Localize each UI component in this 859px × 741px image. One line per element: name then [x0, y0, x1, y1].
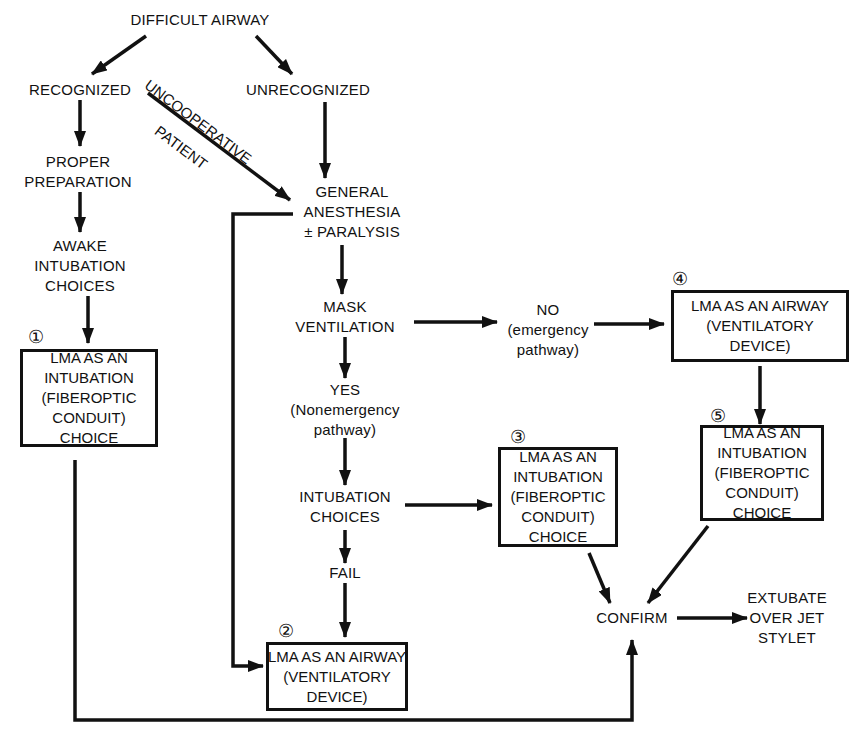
box-2-lma-airway: LMA AS AN AIRWAY (VENTILATORY DEVICE)	[266, 642, 408, 711]
unrecognized-node: UNRECOGNIZED	[246, 80, 370, 100]
general-anesthesia-node: GENERAL ANESTHESIA ± PARALYSIS	[303, 182, 400, 242]
box-4-lma-airway: LMA AS AN AIRWAY (VENTILATORY DEVICE)	[671, 290, 849, 362]
recognized-node: RECOGNIZED	[29, 80, 131, 100]
box-4-text: LMA AS AN AIRWAY (VENTILATORY DEVICE)	[691, 296, 829, 356]
yes-nonemergency-node: YES (Nonemergency pathway)	[290, 380, 399, 440]
difficult-airway-title: DIFFICULT AIRWAY	[130, 10, 269, 30]
box-3-number: ③	[510, 428, 526, 446]
fail-node: FAIL	[329, 563, 361, 583]
confirm-node: CONFIRM	[596, 608, 667, 628]
awake-intubation-node: AWAKE INTUBATION CHOICES	[34, 236, 126, 296]
box-1-lma-intubation: LMA AS AN INTUBATION (FIBEROPTIC CONDUIT…	[20, 349, 158, 447]
box-5-text: LMA AS AN INTUBATION (FIBEROPTIC CONDUIT…	[714, 423, 809, 523]
box-5-lma-intubation: LMA AS AN INTUBATION (FIBEROPTIC CONDUIT…	[700, 425, 824, 521]
box-3-text: LMA AS AN INTUBATION (FIBEROPTIC CONDUIT…	[510, 447, 605, 547]
box-2-number: ②	[278, 622, 294, 640]
box-1-text: LMA AS AN INTUBATION (FIBEROPTIC CONDUIT…	[41, 348, 136, 448]
box-2-text: LMA AS AN AIRWAY (VENTILATORY DEVICE)	[268, 647, 406, 707]
box-4-number: ④	[672, 270, 688, 288]
no-emergency-node: NO (emergency pathway)	[507, 300, 588, 360]
extubate-node: EXTUBATE OVER JET STYLET	[747, 588, 827, 648]
box-3-lma-intubation: LMA AS AN INTUBATION (FIBEROPTIC CONDUIT…	[498, 447, 618, 547]
proper-preparation-node: PROPER PREPARATION	[24, 152, 132, 192]
mask-ventilation-node: MASK VENTILATION	[295, 297, 394, 337]
intubation-choices-node: INTUBATION CHOICES	[299, 487, 391, 527]
box-1-number: ①	[28, 328, 44, 346]
